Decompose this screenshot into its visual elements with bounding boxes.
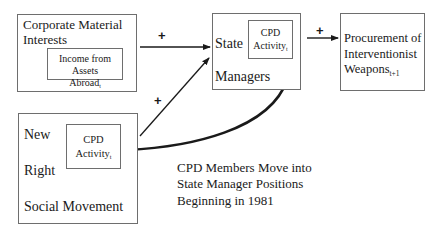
state-title-line1: State	[215, 36, 243, 52]
node-newright-cpd-activity: CPD Activityt	[66, 124, 121, 169]
newright-line1: New	[24, 127, 50, 143]
procurement-line3-text: Weapons	[344, 62, 390, 76]
state-cpd-line2: Activityt	[249, 39, 292, 52]
sign-newright-to-state: +	[154, 94, 162, 107]
newright-line3: Social Movement	[24, 199, 123, 215]
procurement-line3: Weaponst+1	[344, 62, 421, 78]
annotation-line2: State Manager Positions	[177, 176, 312, 192]
procurement-text: Procurement of Interventionist Weaponst+…	[344, 31, 421, 78]
sign-state-to-procurement: +	[316, 24, 324, 37]
sign-corp-to-state: +	[158, 29, 166, 42]
node-procurement-weapons: Procurement of Interventionist Weaponst+…	[340, 13, 425, 91]
procurement-subscript: t+1	[390, 69, 400, 78]
income-line2: Abroadt	[48, 77, 122, 89]
annotation-line3: Beginning in 1981	[177, 193, 312, 209]
newright-cpd-subscript: t	[110, 153, 112, 160]
state-title-line2: Managers	[215, 69, 270, 85]
arrow-cpd-curved	[127, 80, 287, 150]
state-cpd-line2-text: Activity	[253, 40, 286, 51]
annotation-cpd-members: CPD Members Move into State Manager Posi…	[177, 160, 312, 209]
newright-line2: Right	[24, 163, 55, 179]
node-state-cpd-activity: CPD Activityt	[248, 20, 293, 59]
newright-cpd-line2-text: Activity	[75, 148, 109, 159]
income-line2-text: Abroad	[69, 77, 99, 88]
newright-cpd-line2: Activityt	[67, 147, 120, 161]
income-subscript: t	[99, 83, 101, 89]
procurement-line1: Procurement of	[344, 31, 421, 47]
node-income-from-assets-abroad: Income from Assets Abroadt	[47, 48, 123, 80]
income-line1: Income from Assets	[48, 53, 122, 77]
state-cpd-subscript: t	[286, 46, 288, 52]
corporate-title-line1: Corporate Material	[23, 18, 122, 33]
annotation-line1: CPD Members Move into	[177, 160, 312, 176]
newright-cpd-line1: CPD	[67, 133, 120, 147]
corporate-title-line2: Interests	[23, 33, 122, 48]
procurement-line2: Interventionist	[344, 47, 421, 63]
corporate-title: Corporate Material Interests	[23, 18, 122, 48]
arrow-newright-to-state	[140, 58, 209, 136]
state-cpd-line1: CPD	[249, 26, 292, 39]
